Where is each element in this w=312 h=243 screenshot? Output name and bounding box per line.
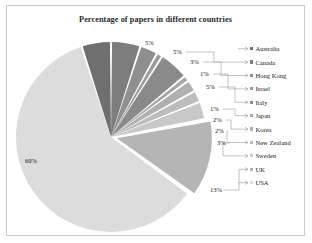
slice-percentage-label: 5% [206,83,215,90]
legend-swatch-icon [250,101,253,104]
legend-swatch-icon [250,141,253,144]
legend-item-label: Japan [255,112,270,119]
legend-item[interactable]: Sweden [250,149,308,162]
legend-swatch-icon [250,74,253,77]
legend-item[interactable]: Australia [250,42,308,55]
legend-swatch-icon [250,47,253,50]
slice-percentage-label: 1% [200,70,209,77]
slice-percentage-label: 13% [210,186,222,193]
legend-item[interactable]: Italy [250,96,308,109]
leader-line [219,87,248,102]
leader-line [213,74,248,89]
legend-item-label: New Zealand [255,139,290,146]
slice-percentage-label: 5% [145,39,154,46]
legend-swatch-icon [250,87,253,90]
legend-item[interactable]: Hong Kong [250,69,308,82]
legend-item-label: Israel [255,85,270,92]
legend-item[interactable]: Korea [250,122,308,135]
leader-line [223,169,248,190]
legend-item[interactable]: New Zealand [250,136,308,149]
slice-percentage-label: 60% [25,157,37,164]
leader-line [227,131,248,143]
legend-item-label: Italy [255,99,267,106]
chart-legend: AustraliaCanadaHong KongIsraelItalyJapan… [250,42,308,189]
leader-line [226,120,248,129]
legend-item[interactable]: Israel [250,82,308,95]
leader-line [223,109,248,116]
legend-swatch-icon [250,181,253,184]
legend-item[interactable]: USA [250,176,308,189]
legend-item[interactable]: Japan [250,109,308,122]
slice-percentage-label: 2% [215,127,224,134]
legend-item-label: Korea [255,126,271,133]
slice-percentage-label: 3% [217,139,226,146]
legend-swatch-icon [250,60,253,63]
legend-swatch-icon [250,168,253,171]
legend-item-label: Sweden [255,152,276,159]
slice-percentage-label: 2% [213,116,222,123]
legend-item-label: Australia [255,45,279,52]
slice-percentage-label: 5% [173,48,182,55]
legend-swatch-icon [250,114,253,117]
legend-swatch-icon [250,127,253,130]
legend-item-label: USA [255,179,268,186]
legend-item-label: Hong Kong [255,72,286,79]
slice-percentage-label: 3% [190,58,199,65]
legend-swatch-icon [250,154,253,157]
leader-line [203,62,248,76]
pie-slices [16,42,212,232]
legend-item[interactable]: UK [250,163,308,176]
leader-line [223,143,248,156]
legend-item-label: UK [255,166,265,173]
legend-item[interactable]: Canada [250,55,308,68]
chart-figure: Percentage of papers in different countr… [6,5,305,236]
legend-item-label: Canada [255,59,275,66]
slice-percentage-label: 1% [210,105,219,112]
